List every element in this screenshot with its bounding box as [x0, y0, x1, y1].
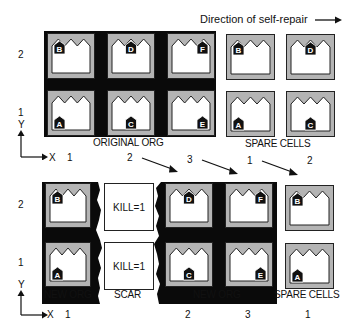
kill-flag-label: KILL=1 — [113, 261, 145, 272]
bottom-col-label: 3 — [245, 310, 251, 320]
bottom-row-label-1: 1 — [18, 258, 24, 268]
bottom-row-label-2: 2 — [18, 200, 24, 210]
original-cell-c: C — [107, 90, 155, 136]
bottom-col-label: 2 — [185, 310, 191, 320]
cell-letter: E — [200, 120, 206, 129]
top-col-label: 1 — [67, 153, 73, 163]
spare-cell-b: B — [226, 34, 275, 80]
cell-letter: F — [258, 195, 263, 204]
kill-flag-label: KILL=1 — [113, 202, 145, 213]
spare-cell-a: A — [226, 91, 275, 137]
new-org-cell-e: E — [225, 242, 273, 287]
top-axis-icon — [17, 130, 51, 160]
spare-cell-b: B — [285, 185, 334, 231]
new-org-cell-d: D — [165, 183, 213, 228]
caption-scar: SCAR — [114, 290, 141, 300]
scar-cell: KILL=1 — [104, 183, 154, 231]
top-col-label: 2 — [307, 156, 313, 166]
bottom-col-label: 1 — [305, 310, 311, 320]
caption-new-org-left: NEW ORG — [44, 290, 92, 300]
cell-letter: B — [55, 195, 61, 204]
cell-letter: A — [55, 271, 61, 280]
direction-title: Direction of self-repair — [200, 14, 308, 24]
cell-letter: A — [57, 120, 63, 129]
shift-arrow-icon — [140, 155, 180, 175]
cell-letter: D — [308, 46, 314, 55]
cell-letter: C — [128, 120, 134, 129]
cell-letter: B — [57, 45, 63, 54]
bottom-axis-icon — [17, 290, 51, 320]
original-cell-e: E — [167, 90, 215, 136]
top-x-axis-label: X — [49, 153, 56, 163]
top-col-label: 1 — [247, 156, 253, 166]
cell-letter: C — [186, 271, 192, 280]
bottom-y-axis-label: Y — [18, 280, 25, 290]
cell-letter: B — [295, 197, 301, 206]
bottom-col-label: 1 — [65, 310, 71, 320]
shift-arrow-icon — [260, 158, 300, 178]
cell-letter: D — [128, 45, 134, 54]
cell-letter: E — [258, 271, 264, 280]
top-row-label-1: 1 — [18, 108, 24, 118]
caption-spare-cells-top: SPARE CELLS — [245, 139, 310, 149]
direction-arrow-icon — [315, 16, 343, 24]
cell-letter: F — [200, 45, 205, 54]
caption-spare-cells-bottom: SPARE CELLS — [274, 290, 339, 300]
new-org-cell-f: F — [225, 183, 273, 228]
top-row-label-2: 2 — [18, 50, 24, 60]
caption-new-org-right: NEW ORG — [193, 290, 241, 300]
cell-letter: A — [295, 273, 301, 282]
new-org-cell-a: A — [45, 242, 91, 287]
top-y-axis-label: Y — [18, 120, 25, 130]
spare-cell-a: A — [285, 243, 334, 289]
spare-cell-c: C — [286, 91, 335, 137]
cell-letter: A — [236, 121, 242, 130]
spare-cell-d: D — [286, 34, 335, 80]
original-cell-a: A — [47, 90, 95, 136]
caption-original-org: ORIGINAL ORG — [93, 138, 164, 148]
top-col-label: 3 — [187, 155, 193, 165]
original-cell-f: F — [167, 33, 215, 79]
original-cell-d: D — [107, 33, 155, 79]
cell-letter: D — [186, 195, 192, 204]
shift-arrow-icon — [200, 157, 240, 177]
new-org-cell-c: C — [165, 242, 213, 287]
new-org-cell-b: B — [45, 183, 91, 228]
cell-letter: B — [236, 46, 242, 55]
scar-cell: KILL=1 — [104, 242, 154, 290]
top-col-label: 2 — [127, 153, 133, 163]
cell-letter: C — [308, 121, 314, 130]
original-cell-b: B — [47, 33, 95, 79]
bottom-x-axis-label: X — [47, 310, 54, 320]
